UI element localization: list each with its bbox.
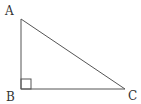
side-ac (21, 19, 125, 89)
vertex-label-a: A (4, 4, 14, 18)
triangle-abc (21, 19, 125, 89)
right-angle-marker (21, 79, 31, 89)
vertex-label-b: B (6, 90, 15, 104)
vertex-label-c: C (128, 89, 137, 103)
triangle-diagram: A B C (0, 0, 141, 104)
